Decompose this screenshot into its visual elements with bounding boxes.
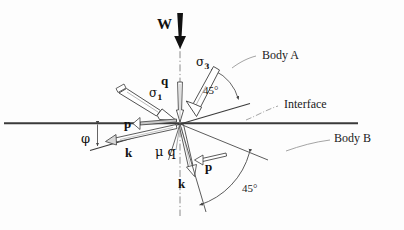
label-phi: φ: [81, 132, 90, 145]
label-q-upper: q: [161, 74, 168, 87]
k-force-arrow-left: [106, 125, 178, 146]
diagram-canvas: [0, 0, 404, 230]
body-a-leader-line: [232, 56, 256, 68]
label-sigma3: σ3: [196, 56, 209, 71]
interface-leader-line: [246, 106, 278, 120]
label-weight-w: W: [157, 17, 172, 32]
q-force-arrow: [176, 82, 183, 122]
force-diagram-figure: W σ3 σ1 q 45° p φ k μ q p k 45° Body A I…: [0, 0, 404, 230]
label-sigma1: σ1: [149, 87, 162, 102]
label-p-upper: p: [124, 117, 131, 130]
label-p-lower: p: [205, 160, 212, 173]
label-k-left: k: [125, 146, 132, 159]
label-k-lower: k: [178, 177, 185, 190]
label-body-b: Body B: [334, 132, 371, 144]
label-mu-q: μ q: [155, 145, 176, 158]
label-body-a: Body A: [262, 49, 299, 61]
label-angle-lower-45: 45°: [242, 183, 257, 194]
label-angle-upper-45: 45°: [203, 85, 218, 96]
label-interface: Interface: [284, 98, 327, 110]
weight-arrow-w: [174, 13, 186, 49]
body-b-leader-line: [286, 140, 330, 151]
